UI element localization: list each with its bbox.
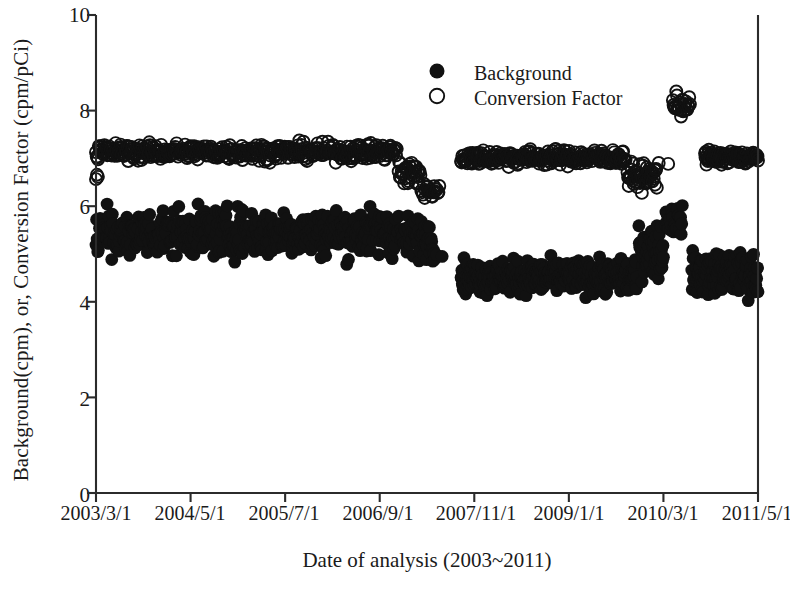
data-point-background xyxy=(172,200,185,213)
data-point-background xyxy=(657,239,670,252)
data-point-background xyxy=(675,217,688,230)
legend-markers xyxy=(430,64,445,104)
legend-marker-open-circle xyxy=(430,89,444,103)
data-point-background xyxy=(143,208,156,221)
data-point-background xyxy=(676,199,689,212)
legend-marker-filled-circle xyxy=(430,64,445,79)
data-point-background xyxy=(342,253,355,266)
data-point-background xyxy=(423,221,436,234)
data-points-layer xyxy=(90,85,765,307)
data-point-background xyxy=(632,219,645,232)
chart-figure: Background(cpm), or, Conversion Factor (… xyxy=(0,0,790,597)
data-point-background xyxy=(319,249,332,262)
data-point-background xyxy=(657,251,670,264)
data-point-background xyxy=(436,250,449,263)
plot-area xyxy=(0,0,790,597)
